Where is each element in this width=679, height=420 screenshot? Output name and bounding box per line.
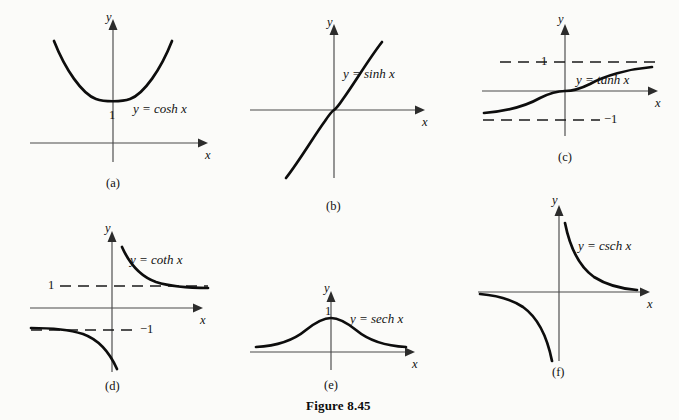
x-axis-arrow <box>648 87 658 96</box>
equation-label-tanh: y = tanh x <box>576 73 629 86</box>
tick-label-one: 1 <box>109 109 115 122</box>
y-axis-label: y <box>324 282 330 295</box>
panel-caption-c: (c) <box>558 151 572 164</box>
figure-caption: Figure 8.45 <box>306 398 371 414</box>
csch-branch-negative <box>480 294 552 361</box>
panel-coth: y x 1 −1 y = coth x (d) <box>30 222 215 377</box>
y-axis-label: y <box>327 16 333 29</box>
x-axis-arrow <box>415 106 425 115</box>
equation-label-coth: y = coth x <box>130 253 182 266</box>
x-axis-label: x <box>422 116 428 129</box>
x-axis-label: x <box>200 314 206 327</box>
panel-csch: y x y = csch x (f) <box>478 196 663 366</box>
x-axis-label: x <box>647 298 653 311</box>
x-axis-arrow <box>640 288 650 297</box>
panel-caption-b: (b) <box>326 200 341 213</box>
panel-sinh: y x y = sinh x (b) <box>250 20 430 200</box>
x-axis-arrow <box>193 304 203 313</box>
panel-caption-d: (d) <box>105 380 120 393</box>
x-axis-arrow <box>405 348 415 357</box>
x-axis-arrow <box>198 139 208 148</box>
equation-label-csch: y = csch x <box>578 239 631 252</box>
tick-label-one: 1 <box>325 305 331 318</box>
panel-caption-a: (a) <box>106 177 120 190</box>
panel-tanh: y x 1 −1 y = tanh x (c) <box>480 18 670 148</box>
tick-label-one: 1 <box>48 279 54 292</box>
panel-caption-e: (e) <box>324 379 338 392</box>
tick-label-negative-one: −1 <box>604 113 617 126</box>
equation-label-sinh: y = sinh x <box>343 67 395 80</box>
tick-label-negative-one: −1 <box>140 323 153 336</box>
figure-hyperbolic-functions: y x 1 y = cosh x (a) y x y = sinh x (b) <box>0 0 679 420</box>
x-axis-label: x <box>655 97 661 110</box>
coth-branch-negative <box>31 328 117 369</box>
y-axis-label: y <box>106 11 112 24</box>
csch-branch-positive <box>565 223 637 290</box>
x-axis-label: x <box>412 358 418 371</box>
panel-cosh: y x 1 y = cosh x (a) <box>30 14 210 169</box>
y-axis-label: y <box>105 222 111 235</box>
equation-label-sech: y = sech x <box>350 312 403 325</box>
tick-label-one: 1 <box>541 55 547 68</box>
x-axis-label: x <box>205 149 211 162</box>
y-axis-label: y <box>552 194 558 207</box>
y-axis-label: y <box>558 13 564 26</box>
equation-label-cosh: y = cosh x <box>133 102 187 115</box>
panel-sech: y x 1 y = sech x (e) <box>250 286 430 376</box>
panel-caption-f: (f) <box>552 366 565 379</box>
